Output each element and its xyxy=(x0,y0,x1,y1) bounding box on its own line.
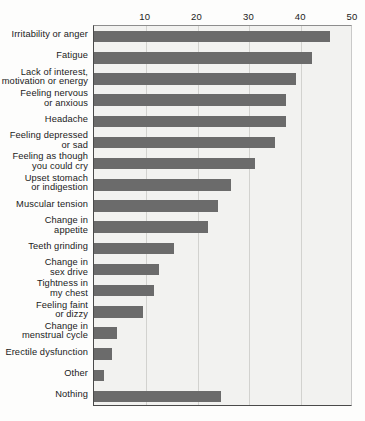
bar-row xyxy=(94,221,351,233)
bar-row xyxy=(94,391,351,403)
category-label: Change in sex drive xyxy=(45,258,88,277)
bar-row xyxy=(94,73,351,85)
bar-row xyxy=(94,158,351,170)
category-label: Fatigue xyxy=(56,51,88,61)
bar xyxy=(94,200,218,212)
bar xyxy=(94,116,286,128)
category-label: Feeling faint or dizzy xyxy=(36,301,88,320)
category-label: Feeling as though you could cry xyxy=(12,152,88,171)
bar-row xyxy=(94,179,351,191)
bar xyxy=(94,327,117,339)
category-label: Feeling nervous or anxious xyxy=(20,89,88,108)
category-label: Irritability or anger xyxy=(11,30,88,40)
category-label: Teeth grinding xyxy=(28,242,88,252)
bar xyxy=(94,348,112,360)
category-label: Erectile dysfunction xyxy=(5,348,88,358)
bar xyxy=(94,179,231,191)
bar xyxy=(94,243,174,255)
bar-row xyxy=(94,285,351,297)
bar-row xyxy=(94,306,351,318)
category-labels: Irritability or angerFatigueLack of inte… xyxy=(0,25,91,406)
bar xyxy=(94,137,275,149)
bar-row xyxy=(94,31,351,43)
bar-row xyxy=(94,264,351,276)
plot-area xyxy=(93,25,352,406)
bar-row xyxy=(94,116,351,128)
category-label: Muscular tension xyxy=(16,200,88,210)
category-label: Change in menstrual cycle xyxy=(22,322,88,341)
bar-row xyxy=(94,94,351,106)
bar-row xyxy=(94,348,351,360)
category-label: Lack of interest, motivation or energy xyxy=(2,68,88,87)
bar xyxy=(94,264,159,276)
x-tick-label-40: 40 xyxy=(295,11,306,22)
bar-row xyxy=(94,52,351,64)
x-tick-label-10: 10 xyxy=(139,11,150,22)
category-label: Nothing xyxy=(55,390,88,400)
bar-row xyxy=(94,200,351,212)
x-axis-tick-labels: 1020304050 xyxy=(0,0,365,26)
bar xyxy=(94,285,154,297)
bar xyxy=(94,221,208,233)
bar xyxy=(94,391,221,403)
category-label: Headache xyxy=(45,115,88,125)
bar xyxy=(94,94,286,106)
x-tick-label-50: 50 xyxy=(347,11,358,22)
category-label: Feeling depressed or sad xyxy=(10,131,88,150)
bar-rows xyxy=(94,26,351,405)
bar xyxy=(94,370,104,382)
bar-row xyxy=(94,327,351,339)
bar-chart: 1020304050 Irritability or angerFatigueL… xyxy=(0,0,365,421)
bar-row xyxy=(94,243,351,255)
bar xyxy=(94,52,312,64)
bar xyxy=(94,306,143,318)
bar-row xyxy=(94,370,351,382)
category-label: Tightness in my chest xyxy=(37,279,88,298)
category-label: Upset stomach or indigestion xyxy=(25,174,88,193)
bar-row xyxy=(94,137,351,149)
x-tick-label-20: 20 xyxy=(191,11,202,22)
bar xyxy=(94,73,296,85)
bar xyxy=(94,158,255,170)
x-tick-label-30: 30 xyxy=(243,11,254,22)
bar xyxy=(94,31,330,43)
category-label: Other xyxy=(64,369,88,379)
category-label: Change in appetite xyxy=(45,216,88,235)
